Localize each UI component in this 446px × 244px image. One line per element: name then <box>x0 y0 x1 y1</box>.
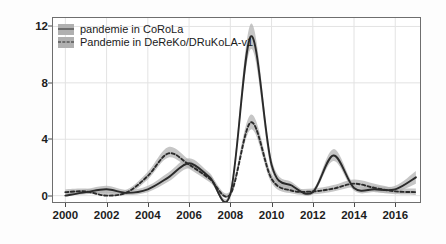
legend-item-corola: pandemie in CoRoLa <box>58 23 253 35</box>
legend-label-dereko: Pandemie in DeReKo/DRuKoLA-v1 <box>80 36 253 48</box>
x-tick-mark <box>189 203 190 207</box>
x-tick-label: 2002 <box>85 209 129 221</box>
x-tick-mark <box>148 203 149 207</box>
y-tick-mark <box>48 26 52 27</box>
y-tick-mark <box>48 195 52 196</box>
legend-item-dereko: Pandemie in DeReKo/DRuKoLA-v1 <box>58 36 253 48</box>
x-tick-label: 2008 <box>208 209 252 221</box>
x-tick-label: 2012 <box>291 209 335 221</box>
x-tick-mark <box>65 203 66 207</box>
legend-label-corola: pandemie in CoRoLa <box>80 23 183 35</box>
chart-figure: Instanzen pro Millionen 04812 2000200220… <box>0 0 446 244</box>
x-tick-label: 2010 <box>250 209 294 221</box>
x-tick-mark <box>313 203 314 207</box>
x-tick-mark <box>395 203 396 207</box>
legend-key-solid-icon <box>58 24 74 35</box>
y-tick-mark <box>48 139 52 140</box>
legend-key-dashed-icon <box>58 37 74 48</box>
x-tick-label: 2014 <box>332 209 376 221</box>
x-tick-mark <box>272 203 273 207</box>
chart-legend: pandemie in CoRoLa Pandemie in DeReKo/DR… <box>56 22 255 49</box>
x-tick-mark <box>107 203 108 207</box>
x-tick-label: 2000 <box>43 209 87 221</box>
x-tick-mark <box>354 203 355 207</box>
x-tick-label: 2004 <box>126 209 170 221</box>
x-tick-mark <box>230 203 231 207</box>
x-tick-label: 2016 <box>373 209 417 221</box>
y-tick-mark <box>48 82 52 83</box>
x-tick-label: 2006 <box>167 209 211 221</box>
